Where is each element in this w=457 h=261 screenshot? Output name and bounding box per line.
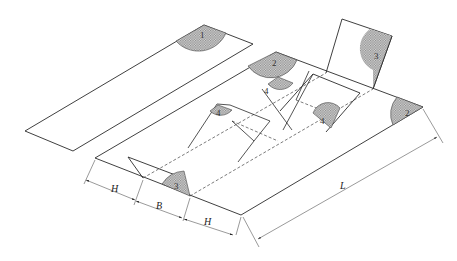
- dimension-label-l: L: [339, 180, 346, 191]
- region-label-3-bottom: 3: [174, 181, 179, 191]
- region-label-1: 1: [200, 30, 205, 40]
- upright-flap-3: 3: [326, 19, 392, 89]
- inner-fold-left: 4: [188, 104, 270, 162]
- region-label-3-top: 3: [374, 51, 379, 61]
- hatched-region-4-right: [313, 103, 340, 128]
- region-label-4-upper: 4: [264, 86, 269, 96]
- hatched-region-4-upper: [268, 77, 293, 90]
- region-label-2-right: 2: [405, 108, 410, 118]
- dimension-label-h-right: H: [203, 216, 212, 227]
- hatched-region-4-left: [210, 105, 232, 115]
- dimension-label-h-left: H: [110, 183, 119, 194]
- folding-diagram: 1 2 2 3 4 4: [0, 0, 457, 261]
- diagram-canvas: 1 2 2 3 4 4: [0, 0, 457, 261]
- dimension-label-b: B: [156, 200, 162, 211]
- region-label-4-left: 4: [216, 108, 221, 118]
- front-flap-3: 3: [128, 157, 190, 196]
- region-label-2-top: 2: [272, 58, 277, 68]
- inner-fold-upper: 4: [262, 71, 360, 132]
- region-label-4-right: 4: [320, 116, 325, 126]
